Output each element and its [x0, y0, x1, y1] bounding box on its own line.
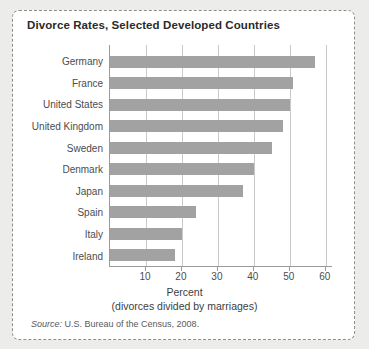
bar: [110, 228, 182, 240]
x-axis-title-line2: (divorces divided by marriages): [13, 299, 356, 313]
source-note: Source: U.S. Bureau of the Census, 2008.: [31, 319, 199, 329]
bar: [110, 206, 196, 218]
bar-row: [110, 180, 332, 202]
y-axis-category-labels: GermanyFranceUnited StatesUnited Kingdom…: [13, 51, 109, 267]
bar-row: [110, 223, 332, 245]
tick-label: 40: [247, 271, 258, 282]
bar: [110, 163, 254, 175]
tick-label: 60: [319, 271, 330, 282]
category-label: Italy: [13, 224, 109, 246]
plot-area: [109, 45, 332, 267]
bar-row: [110, 73, 332, 95]
bar-row: [110, 116, 332, 138]
bar-row: [110, 94, 332, 116]
x-axis-title-line1: Percent: [166, 286, 202, 298]
category-label: Sweden: [13, 137, 109, 159]
category-label: Ireland: [13, 245, 109, 267]
bar-row: [110, 245, 332, 267]
x-axis-ticks: 102030405060: [109, 267, 332, 283]
category-label: France: [13, 73, 109, 95]
bar: [110, 185, 243, 197]
bar-row: [110, 137, 332, 159]
tick-label: 10: [139, 271, 150, 282]
category-label: United States: [13, 94, 109, 116]
bar: [110, 249, 175, 261]
category-label: United Kingdom: [13, 116, 109, 138]
bar-series: [110, 51, 332, 266]
tick-label: 30: [211, 271, 222, 282]
bar: [110, 99, 290, 111]
bar: [110, 120, 283, 132]
source-label: Source:: [31, 319, 62, 329]
bar: [110, 142, 272, 154]
bar: [110, 77, 293, 89]
tick-label: 50: [283, 271, 294, 282]
figure-background: Divorce Rates, Selected Developed Countr…: [0, 0, 369, 349]
category-label: Spain: [13, 202, 109, 224]
category-label: Germany: [13, 51, 109, 73]
source-text: U.S. Bureau of the Census, 2008.: [65, 319, 200, 329]
category-label: Denmark: [13, 159, 109, 181]
bar: [110, 56, 315, 68]
bar-row: [110, 159, 332, 181]
tick-label: 20: [175, 271, 186, 282]
x-axis-title: Percent (divorces divided by marriages): [13, 285, 356, 313]
chart-title: Divorce Rates, Selected Developed Countr…: [27, 19, 280, 31]
category-label: Japan: [13, 181, 109, 203]
figure-card: Divorce Rates, Selected Developed Countr…: [12, 10, 355, 340]
bar-row: [110, 202, 332, 224]
bar-row: [110, 51, 332, 73]
plot-container: GermanyFranceUnited StatesUnited Kingdom…: [13, 45, 356, 277]
